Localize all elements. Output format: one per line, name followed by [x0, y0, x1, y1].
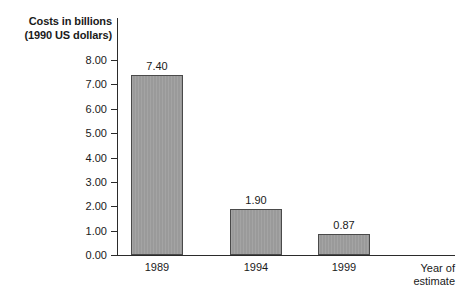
y-tick-label: 4.00: [63, 153, 107, 164]
bar-1999[interactable]: [318, 234, 370, 255]
y-axis-line: [117, 18, 118, 256]
y-tick-mark: [111, 109, 117, 110]
y-tick-mark: [111, 158, 117, 159]
y-tick-mark: [111, 182, 117, 183]
bar-1989[interactable]: [131, 75, 183, 255]
bar-value-label: 7.40: [131, 61, 183, 72]
bar-value-label: 0.87: [318, 220, 370, 231]
y-tick-label: 5.00: [63, 128, 107, 139]
y-tick-label: 2.00: [63, 201, 107, 212]
bar-value-label: 1.90: [230, 195, 282, 206]
y-tick-label: 3.00: [63, 177, 107, 188]
y-tick-mark: [111, 84, 117, 85]
x-axis-title-line-2: estimate: [373, 275, 455, 288]
y-tick-label: 7.00: [63, 79, 107, 90]
x-tick-label: 1994: [230, 262, 282, 273]
y-tick-label: 8.00: [63, 55, 107, 66]
y-axis-title: Costs in billions (1990 US dollars): [8, 14, 112, 42]
y-tick-mark: [111, 231, 117, 232]
x-axis-title-line-1: Year of: [421, 262, 455, 274]
bar-chart: Costs in billions (1990 US dollars) 8.00…: [0, 0, 462, 296]
y-axis-title-line-1: Costs in billions: [29, 15, 112, 27]
x-axis-line: [117, 255, 455, 256]
y-tick-mark: [111, 206, 117, 207]
y-tick-label: 1.00: [63, 226, 107, 237]
y-tick-mark: [111, 133, 117, 134]
x-axis-title: Year of estimate: [373, 262, 455, 288]
x-tick-label: 1989: [131, 262, 183, 273]
y-tick-label: 0.00: [63, 250, 107, 261]
bar-1994[interactable]: [230, 209, 282, 255]
x-tick-label: 1999: [318, 262, 370, 273]
y-tick-mark: [111, 60, 117, 61]
y-tick-mark: [111, 255, 117, 256]
y-axis-title-line-2: (1990 US dollars): [8, 28, 112, 42]
y-tick-label: 6.00: [63, 104, 107, 115]
